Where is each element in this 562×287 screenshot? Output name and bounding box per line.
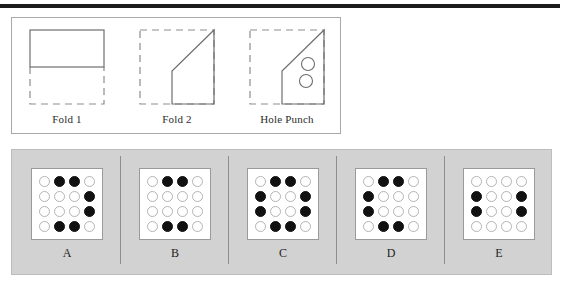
option-e-dot-grid [469,174,529,234]
option-a-label: A [13,246,121,261]
dot-r1c3 [285,176,296,187]
dot-r2c4 [300,191,311,202]
answer-option-a[interactable]: A [13,151,121,275]
dashed-original-outline [30,67,104,104]
option-c-card[interactable] [247,168,319,240]
option-b-label: B [121,246,229,261]
dot-r1c2 [54,176,65,187]
dot-r1c2 [270,176,281,187]
dot-r2c2 [54,191,65,202]
answer-options-panel: A B [11,149,552,275]
dot-r3c1 [255,206,266,217]
dot-r2c4 [84,191,95,202]
fold-1-caption: Fold 1 [12,113,122,125]
dot-r3c3 [285,206,296,217]
dot-r3c3 [501,206,512,217]
dot-r4c4 [84,221,95,232]
dot-r2c3 [69,191,80,202]
dot-r1c1 [471,176,482,187]
option-e-card[interactable] [463,168,535,240]
dot-r1c3 [69,176,80,187]
dot-r1c1 [147,176,158,187]
option-d-card[interactable] [355,168,427,240]
fold-2-diagram [136,26,218,108]
hole-punch-caption: Hole Punch [232,113,342,125]
dot-r4c3 [69,221,80,232]
dot-r2c4 [192,191,203,202]
option-a-card[interactable] [31,168,103,240]
option-a-dot-grid [37,174,97,234]
fold-2-caption: Fold 2 [122,113,232,125]
dot-r1c4 [84,176,95,187]
answer-option-e[interactable]: E [445,151,553,275]
dot-r1c3 [393,176,404,187]
dot-r3c2 [162,206,173,217]
solid-folded-polygon [282,30,324,104]
dot-r4c2 [54,221,65,232]
dot-r3c4 [516,206,527,217]
dot-r2c1 [39,191,50,202]
answer-option-c[interactable]: C [229,151,337,275]
dot-r4c1 [471,221,482,232]
dot-r1c4 [300,176,311,187]
punched-hole-upper-icon [302,58,315,71]
dot-r2c3 [177,191,188,202]
dot-r3c2 [270,206,281,217]
answer-option-b[interactable]: B [121,151,229,275]
dot-r1c4 [192,176,203,187]
dot-r4c3 [285,221,296,232]
option-c-label: C [229,246,337,261]
option-b-dot-grid [145,174,205,234]
dot-r4c3 [177,221,188,232]
fold-step-1: Fold 1 [12,18,122,135]
dot-r2c1 [363,191,374,202]
dot-r3c2 [486,206,497,217]
option-b-card[interactable] [139,168,211,240]
answer-option-d[interactable]: D [337,151,445,275]
option-d-label: D [337,246,445,261]
solid-folded-rectangle [30,30,104,67]
hole-punch-diagram [246,26,328,108]
dot-r2c2 [486,191,497,202]
dot-r3c1 [363,206,374,217]
dot-r3c1 [39,206,50,217]
dot-r1c2 [162,176,173,187]
fold-step-3-hole-punch: Hole Punch [232,18,342,135]
dot-r3c4 [84,206,95,217]
dot-r3c2 [54,206,65,217]
option-e-label: E [445,246,553,261]
dot-r2c3 [393,191,404,202]
dot-r2c1 [255,191,266,202]
option-c-dot-grid [253,174,313,234]
dot-r1c3 [501,176,512,187]
dot-r4c2 [486,221,497,232]
dot-r2c1 [147,191,158,202]
dot-r1c1 [255,176,266,187]
option-d-dot-grid [361,174,421,234]
dot-r4c3 [393,221,404,232]
dot-r2c4 [408,191,419,202]
dot-r1c4 [408,176,419,187]
dot-r4c2 [270,221,281,232]
dot-r3c2 [378,206,389,217]
dot-r1c2 [378,176,389,187]
dot-r4c3 [501,221,512,232]
dot-r2c4 [516,191,527,202]
dot-r4c2 [162,221,173,232]
header-rule [0,4,560,8]
dot-r4c1 [147,221,158,232]
dot-r4c4 [516,221,527,232]
dot-r1c4 [516,176,527,187]
solid-folded-polygon [172,30,214,104]
dot-r2c2 [270,191,281,202]
dot-r2c1 [471,191,482,202]
dot-r1c1 [39,176,50,187]
dot-r1c2 [486,176,497,187]
dot-r2c3 [285,191,296,202]
dot-r3c3 [69,206,80,217]
dot-r3c1 [147,206,158,217]
dot-r3c4 [192,206,203,217]
dot-r4c4 [408,221,419,232]
dot-r1c1 [363,176,374,187]
dot-r3c4 [408,206,419,217]
